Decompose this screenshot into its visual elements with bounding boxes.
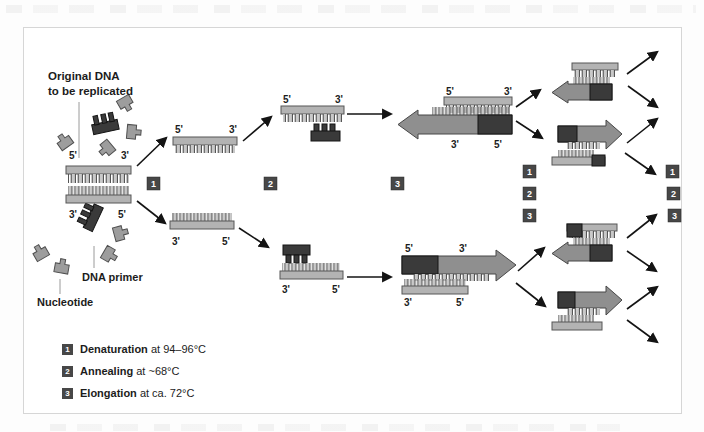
step-badge-2-label: 2 xyxy=(527,189,532,199)
legend-rest: at 94–96°C xyxy=(148,343,206,355)
arrow-next-cycle xyxy=(627,251,656,271)
nucleotide-icon xyxy=(112,224,129,241)
end-label: 5' xyxy=(405,243,413,254)
annealing-top xyxy=(281,106,344,141)
arrow-next-cycle xyxy=(627,52,657,74)
nucleotide-icon xyxy=(30,242,49,261)
arrow-cycle2-d xyxy=(516,283,545,306)
nucleotide-icon xyxy=(54,131,73,150)
step-badge-2-label: 2 xyxy=(671,189,676,199)
legend-item-annealing: 2 Annealing at ~68°C xyxy=(62,365,206,377)
step-badge-3-label: 3 xyxy=(527,211,532,221)
end-label: 3' xyxy=(69,209,77,220)
end-label: 5' xyxy=(222,236,230,247)
nucleotide-icon xyxy=(54,258,70,274)
step-badge-2-label: 2 xyxy=(268,179,273,189)
legend-badge-1: 1 xyxy=(62,344,73,355)
nucleotide-label: Nucleotide xyxy=(37,296,93,308)
step-badge-3-label: 3 xyxy=(395,179,400,189)
end-label: 5' xyxy=(494,139,502,150)
end-label: 5' xyxy=(332,284,340,295)
step-badge-1-label: 1 xyxy=(151,179,156,189)
annotation-line2: to be replicated xyxy=(48,84,133,99)
end-label: 3' xyxy=(335,94,343,105)
legend: 1 Denaturation at 94–96°C 2 Annealing at… xyxy=(62,343,206,409)
arrow-next-cycle xyxy=(627,215,656,238)
end-label: 5' xyxy=(175,124,183,135)
annotation-line1: Original DNA xyxy=(48,69,133,84)
legend-term: Denaturation xyxy=(80,343,148,355)
dna-primer-label: DNA primer xyxy=(82,271,143,283)
product-pair-a xyxy=(552,63,618,103)
legend-badge-2: 2 xyxy=(62,366,73,377)
arrow-next-cycle xyxy=(628,86,657,107)
end-label: 3' xyxy=(459,243,467,254)
end-label: 3' xyxy=(121,150,129,161)
end-label: 5' xyxy=(69,150,77,161)
legend-item-elongation: 3 Elongation at ca. 72°C xyxy=(62,387,206,399)
legend-badge-3: 3 xyxy=(62,388,73,399)
original-dna-duplex xyxy=(66,166,131,203)
product-pair-c xyxy=(552,224,617,264)
arrow-cycle2-c xyxy=(518,248,544,271)
product-pair-d xyxy=(552,286,622,330)
end-label: 3' xyxy=(451,139,459,150)
arrow-cycle2-b xyxy=(516,121,542,138)
end-label: 5' xyxy=(446,86,454,97)
end-label: 5' xyxy=(118,209,126,220)
arrow-anneal-bottom xyxy=(239,228,268,247)
arrow-next-cycle xyxy=(625,153,655,174)
legend-rest: at ca. 72°C xyxy=(137,387,195,399)
original-dna-annotation: Original DNA to be replicated xyxy=(48,69,133,99)
denatured-strand-top xyxy=(173,137,237,153)
arrow-denature-top xyxy=(137,138,166,166)
dna-primer-icon xyxy=(76,200,103,231)
denatured-strand-bottom xyxy=(170,213,234,229)
legend-term: Elongation xyxy=(80,387,137,399)
product-pair-b xyxy=(552,120,622,166)
end-label: 3' xyxy=(404,297,412,308)
elongation-top xyxy=(398,97,512,139)
arrow-cycle2-a xyxy=(516,90,540,107)
step-badge-1-label: 1 xyxy=(527,167,532,177)
step-badge-3-label: 3 xyxy=(672,211,677,221)
end-label: 5' xyxy=(283,94,291,105)
arrow-denature-bottom xyxy=(137,201,165,223)
end-label: 5' xyxy=(456,297,464,308)
arrow-next-cycle xyxy=(627,287,657,309)
pcr-diagram-page: 5' 3' 3' 5' 1 5' 3' 3' 5' 2 5' xyxy=(0,0,704,432)
end-label: 3' xyxy=(282,284,290,295)
elongation-bottom xyxy=(402,250,516,294)
dna-primer-icon xyxy=(90,112,119,135)
arrow-anneal-top xyxy=(243,117,271,141)
nucleotide-icon xyxy=(100,245,119,264)
legend-term: Annealing xyxy=(80,365,133,377)
arrow-next-cycle xyxy=(627,320,657,342)
annealing-bottom xyxy=(280,245,343,279)
end-label: 3' xyxy=(229,124,237,135)
nucleotide-icon xyxy=(96,139,116,159)
end-label: 3' xyxy=(172,236,180,247)
step-badge-1-label: 1 xyxy=(670,167,675,177)
legend-rest: at ~68°C xyxy=(133,365,179,377)
free-nucleotides xyxy=(30,94,141,274)
end-label: 3' xyxy=(504,86,512,97)
nucleotide-icon xyxy=(126,124,141,139)
legend-item-denaturation: 1 Denaturation at 94–96°C xyxy=(62,343,206,355)
arrow-next-cycle xyxy=(627,119,657,143)
